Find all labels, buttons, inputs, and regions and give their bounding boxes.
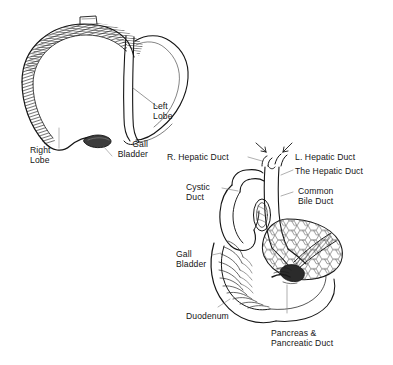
hepatic-duct-arrows xyxy=(256,143,292,152)
duodenum-descending-part xyxy=(276,279,335,321)
hepatic-duct-confluence xyxy=(268,166,275,169)
duodenum-mucosal-folds xyxy=(219,241,269,308)
duct-lumen-window xyxy=(254,199,271,231)
label-common-bile-duct: Common Bile Duct xyxy=(298,186,333,207)
label-cystic-duct: Cystic Duct xyxy=(186,182,210,203)
label-left-lobe: Left Lobe xyxy=(153,101,173,122)
label-duodenum: Duodenum xyxy=(186,311,229,321)
duodenum-wall-shading xyxy=(240,243,261,268)
right-hepatic-duct-outline-right xyxy=(268,158,272,166)
left-hepatic-duct-outline-left xyxy=(275,154,281,164)
right-hepatic-duct-outline-left xyxy=(262,156,267,166)
liver-left-lobe-outline xyxy=(135,36,188,140)
label-gall-bladder-biliary: Gall Bladder xyxy=(176,249,206,270)
left-hepatic-duct-outline-right xyxy=(281,155,287,166)
label-right-hepatic-duct: R. Hepatic Duct xyxy=(167,152,229,162)
gall-bladder-outline-left xyxy=(220,185,256,251)
label-gall-bladder-liver: Gall Bladder xyxy=(90,139,148,160)
label-pancreas: Pancreas & Pancreatic Duct xyxy=(271,328,333,349)
liver-apex-notch xyxy=(80,16,97,24)
label-the-hepatic-duct: The Hepatic Duct xyxy=(295,166,363,176)
cystic-duct-upper-wall xyxy=(232,170,263,185)
label-right-lobe: Right Lobe xyxy=(30,145,51,166)
cystic-duct-lower-wall xyxy=(240,179,264,192)
gall-bladder-outline-right xyxy=(233,192,243,243)
label-left-hepatic-duct: L. Hepatic Duct xyxy=(295,152,355,162)
liver-apex-notch-line xyxy=(82,19,95,20)
